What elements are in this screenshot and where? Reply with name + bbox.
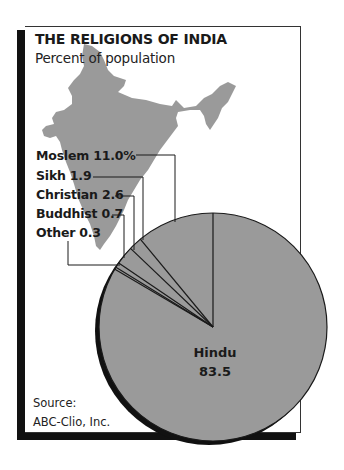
source-name: ABC-Clio, Inc. bbox=[33, 415, 110, 429]
label-hindu-value: 83.5 bbox=[190, 364, 240, 379]
label-hindu-name: Hindu bbox=[190, 345, 240, 360]
chart-title: THE RELIGIONS OF INDIA bbox=[35, 31, 227, 47]
source-label: Source: bbox=[33, 396, 76, 410]
label-christian: Christian 2.6 bbox=[36, 187, 123, 202]
chart-subtitle: Percent of population bbox=[35, 50, 175, 66]
label-other: Other 0.3 bbox=[36, 225, 101, 240]
label-moslem: Moslem 11.0% bbox=[36, 148, 136, 163]
label-sikh: Sikh 1.9 bbox=[36, 168, 91, 183]
label-buddhist: Buddhist 0.7 bbox=[36, 206, 123, 221]
